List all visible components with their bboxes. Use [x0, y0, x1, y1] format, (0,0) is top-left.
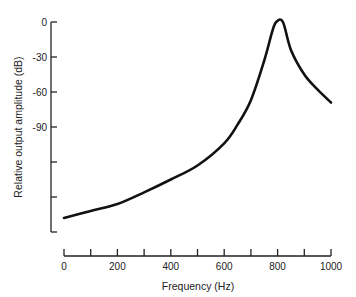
x-tick-label: 600	[216, 261, 233, 272]
y-tick-label: -60	[33, 87, 48, 98]
x-tick-label: 0	[61, 261, 67, 272]
y-tick-label: -90	[33, 122, 48, 133]
x-tick-label: 400	[162, 261, 179, 272]
x-axis-label: Frequency (Hz)	[162, 280, 234, 292]
x-tick-label: 200	[109, 261, 126, 272]
y-tick-label: 0	[41, 17, 47, 28]
y-tick-label: -30	[33, 52, 48, 63]
x-axis: 02004006008001000	[61, 249, 342, 272]
y-axis: 0-30-60-90	[33, 17, 57, 233]
x-tick-label: 800	[269, 261, 286, 272]
x-tick-label: 1000	[320, 261, 343, 272]
frequency-response-chart: 0-30-60-90 02004006008001000 Relative ou…	[0, 0, 356, 297]
y-axis-label: Relative output amplitude (dB)	[12, 56, 24, 197]
response-curve	[64, 20, 331, 218]
